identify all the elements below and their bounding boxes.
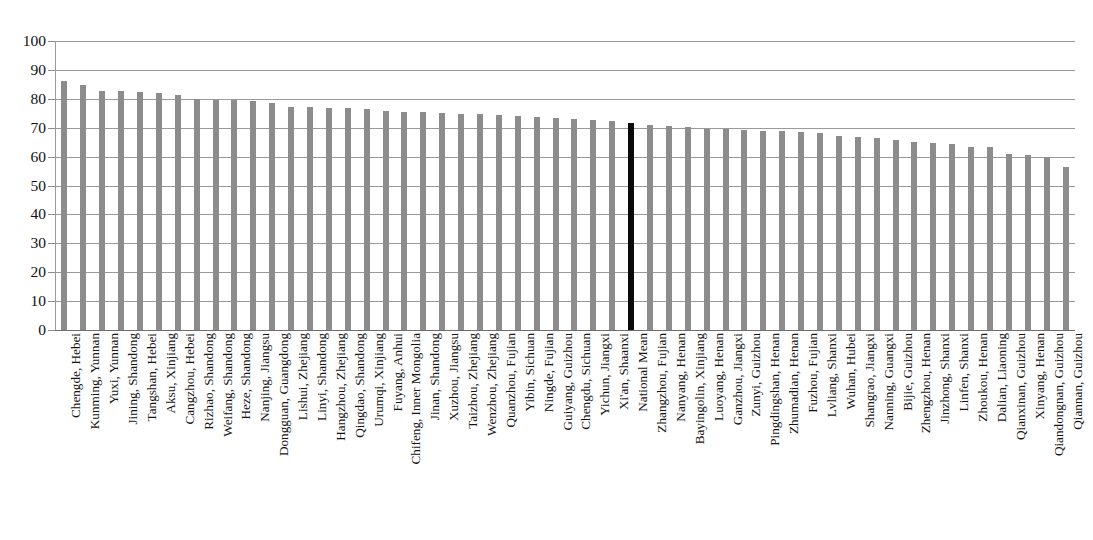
x-tick-label: Linyi, Shandong (315, 333, 328, 421)
y-tick-mark-40 (48, 214, 55, 215)
bar (685, 127, 691, 330)
x-tick-label: Quanzhou, Fujian (504, 333, 517, 428)
x-tick-label: Zhumadian, Henan (787, 333, 800, 434)
x-tick-label: Lishui, Zhejiang (296, 333, 309, 420)
x-tick-label: Xinyang, Henan (1033, 333, 1046, 419)
bar (741, 130, 747, 330)
x-tick-label: Nanyang, Henan (674, 333, 687, 422)
bar (647, 125, 653, 330)
bar (1006, 154, 1012, 330)
bar (364, 109, 370, 330)
bar (798, 132, 804, 330)
bar (213, 100, 219, 330)
bar (250, 101, 256, 330)
x-tick-label: Kunming, Yunnan (88, 333, 101, 429)
bar (118, 91, 124, 330)
y-tick-mark-70 (48, 128, 55, 129)
y-tick-label-30: 30 (6, 235, 46, 251)
bar (968, 147, 974, 330)
x-tick-label: Yibin, Sichuan (523, 333, 536, 411)
bar (496, 115, 502, 330)
bar (836, 136, 842, 330)
y-tick-mark-30 (48, 243, 55, 244)
bar (383, 111, 389, 330)
x-tick-label: Nanning, Guangxi (882, 333, 895, 430)
y-tick-label-100: 100 (6, 33, 46, 49)
y-tick-mark-20 (48, 272, 55, 273)
x-tick-label: Pingdingshan, Henan (768, 333, 781, 446)
x-tick-label: Lvliang, Shanxi (825, 333, 838, 417)
bar (987, 147, 993, 330)
y-tick-label-90: 90 (6, 62, 46, 78)
bar (874, 138, 880, 330)
y-tick-mark-0 (48, 330, 55, 331)
y-tick-label-0: 0 (6, 322, 46, 338)
x-axis-labels: Chengde, HebeiKunming, YunnanYuxi, Yunna… (55, 333, 1075, 533)
bar (515, 116, 521, 330)
bar (590, 120, 596, 330)
x-tick-label: Xuzhou, Jiangsu (447, 333, 460, 421)
bar (439, 113, 445, 330)
x-tick-label: Urumqi, Xinjiang (372, 333, 385, 427)
bar (666, 126, 672, 330)
bar (288, 107, 294, 330)
x-tick-label: Bayingolin, Xinjiang (693, 333, 706, 444)
x-tick-label: Nanjing, Jiangsu (258, 333, 271, 422)
bar (779, 131, 785, 330)
x-tick-label: Zhengzhou, Henan (919, 333, 932, 433)
bar (760, 131, 766, 330)
bar (571, 119, 577, 330)
x-tick-label: Weifang, Shandong (221, 333, 234, 437)
x-tick-label: Wenzhou, Zhejiang (485, 333, 498, 436)
x-tick-label: Qiannan, Guizhou (1071, 333, 1084, 430)
x-tick-label: Qiandongnan, Guizhou (1052, 333, 1065, 456)
bar (1063, 167, 1069, 330)
bar (99, 91, 105, 330)
bar (553, 118, 559, 330)
y-tick-mark-80 (48, 99, 55, 100)
bar (949, 144, 955, 330)
y-tick-mark-90 (48, 70, 55, 71)
bar (1025, 155, 1031, 330)
y-tick-label-20: 20 (6, 264, 46, 280)
bar (345, 108, 351, 330)
x-tick-label: Chengde, Hebei (69, 333, 82, 418)
x-tick-label: Chengdu, Sichuan (579, 333, 592, 430)
bars-container (55, 41, 1075, 330)
x-tick-label: Qingdao, Shandong (353, 333, 366, 438)
x-tick-label: National Mean (636, 333, 649, 412)
x-tick-label: Dalian, Liaoning (995, 333, 1008, 422)
bar (704, 129, 710, 330)
x-tick-label: Wuhan, Hubei (844, 333, 857, 409)
bar (269, 103, 275, 330)
y-tick-mark-60 (48, 157, 55, 158)
x-tick-label: Fuzhou, Fujian (806, 333, 819, 413)
bar (156, 93, 162, 330)
x-tick-label: Zhoukou, Henan (976, 333, 989, 422)
bar (855, 137, 861, 330)
x-tick-label: Zhangzhou, Fujian (655, 333, 668, 433)
x-tick-label: Jinzhong, Shanxi (938, 333, 951, 424)
x-tick-label: Ningde, Fujian (542, 333, 555, 412)
x-tick-label: Dongguan, Guangdong (277, 333, 290, 456)
y-tick-label-80: 80 (6, 91, 46, 107)
y-tick-label-60: 60 (6, 149, 46, 165)
bar (609, 121, 615, 330)
bar (723, 129, 729, 330)
x-tick-label: Cangzhou, Hebei (183, 333, 196, 425)
bar (817, 133, 823, 330)
y-tick-mark-50 (48, 186, 55, 187)
x-tick-label: Yichun, Jiangxi (598, 333, 611, 416)
bar (307, 107, 313, 330)
y-tick-mark-100 (48, 41, 55, 42)
bar (61, 81, 67, 330)
x-tick-label: Shangrao, Jiangxi (863, 333, 876, 428)
x-tick-label: Hangzhou, Zhejiang (334, 333, 347, 441)
x-tick-label: Heze, Shandong (239, 333, 252, 419)
bar (930, 143, 936, 330)
bar (420, 112, 426, 330)
bar (231, 100, 237, 330)
x-tick-label: Luoyang, Henan (712, 333, 725, 421)
x-tick-label: Rizhao, Shandong (202, 333, 215, 430)
bar (80, 85, 86, 330)
